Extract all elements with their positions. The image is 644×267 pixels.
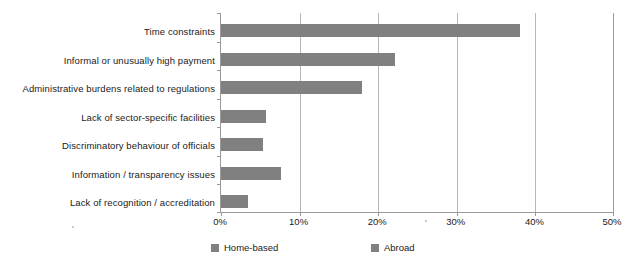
category-label: Discriminatory behaviour of officials xyxy=(0,140,215,151)
category-axis-labels: Time constraints Informal or unusually h… xyxy=(0,13,215,212)
gridline-30 xyxy=(457,13,458,212)
category-label: Information / transparency issues xyxy=(0,169,215,180)
bar-chart: Time constraints Informal or unusually h… xyxy=(0,0,644,267)
y-axis-tick xyxy=(217,184,221,185)
chart-legend: Home-based Abroad xyxy=(0,241,644,257)
y-axis-tick xyxy=(217,42,221,43)
legend-label: Home-based xyxy=(224,242,278,254)
bar xyxy=(221,195,248,208)
x-tick-label: 30% xyxy=(446,216,465,228)
gridline-20 xyxy=(378,13,379,212)
y-axis-tick xyxy=(217,13,221,14)
category-label: Lack of sector-specific facilities xyxy=(0,112,215,123)
bar xyxy=(221,53,395,66)
category-label: Time constraints xyxy=(0,26,215,37)
category-label: Informal or unusually high payment xyxy=(0,55,215,66)
legend-swatch-icon xyxy=(211,244,219,252)
bar xyxy=(221,167,281,180)
legend-item-home-based[interactable]: Home-based xyxy=(211,241,278,255)
gridline-50 xyxy=(613,13,614,212)
y-axis-tick xyxy=(217,99,221,100)
x-tick-label: 40% xyxy=(525,216,544,228)
legend-item-abroad[interactable]: Abroad xyxy=(371,241,415,255)
scan-speck xyxy=(425,220,427,222)
gridline-10 xyxy=(300,13,301,212)
bar xyxy=(221,138,263,151)
scan-speck xyxy=(72,226,74,228)
y-axis-tick xyxy=(217,127,221,128)
category-label: Administrative burdens related to regula… xyxy=(0,83,215,94)
bar xyxy=(221,81,362,94)
x-axis-labels: 0% 10% 20% 30% 40% 50% xyxy=(220,216,613,230)
category-label: Lack of recognition / accreditation xyxy=(0,197,215,208)
x-tick-label: 20% xyxy=(368,216,387,228)
y-axis-tick xyxy=(217,156,221,157)
legend-label: Abroad xyxy=(384,242,415,254)
plot-area xyxy=(220,13,614,213)
bar xyxy=(221,110,266,123)
x-tick-label: 50% xyxy=(602,216,621,228)
x-tick-label: 10% xyxy=(289,216,308,228)
x-tick-label: 0% xyxy=(213,216,227,228)
y-axis-tick xyxy=(217,70,221,71)
gridline-40 xyxy=(535,13,536,212)
bar xyxy=(221,24,520,37)
legend-swatch-icon xyxy=(371,244,379,252)
